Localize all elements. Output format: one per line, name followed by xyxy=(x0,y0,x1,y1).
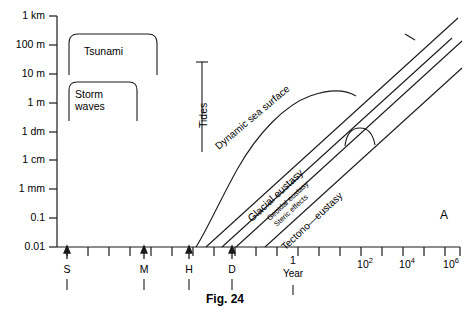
y-tick-label-0.1: 0.1 xyxy=(0,212,45,223)
x-marker-label-M: M xyxy=(130,264,158,275)
storm-waves-label-line2: waves xyxy=(75,100,105,112)
x-tick-label-1e6: 106 xyxy=(433,255,469,270)
geoidal-eustasy-endcap xyxy=(405,34,415,40)
x-marker-label-H: H xyxy=(175,264,203,275)
y-tick-label-100m: 100 m xyxy=(0,39,45,50)
panel-label: A xyxy=(440,208,448,222)
x-marker-label-S: S xyxy=(53,264,81,275)
y-tick-label-1cm: 1 cm xyxy=(0,154,45,165)
x-tick-label-1e4: 104 xyxy=(389,255,425,270)
x-tick-label-1e2: 102 xyxy=(347,255,383,270)
x-marker-label-D: D xyxy=(218,264,246,275)
x-marker-label-Year: Year xyxy=(272,268,314,279)
tectono-eustasy-line xyxy=(265,68,462,247)
y-tick-label-10m: 10 m xyxy=(0,68,45,79)
x-tick-label-1: 1 xyxy=(279,255,307,266)
y-tick-label-1m: 1 m xyxy=(0,97,45,108)
tsunami-label: Tsunami xyxy=(84,45,123,57)
glacial-eustasy-line xyxy=(206,18,458,247)
figure-caption: Fig. 24 xyxy=(206,292,244,306)
y-tick-label-1km: 1 km xyxy=(0,10,45,21)
y-tick-label-0.01: 0.01 xyxy=(0,241,45,252)
y-axis-ticks xyxy=(49,16,57,247)
storm-waves-label-line1: Storm xyxy=(75,88,103,100)
y-tick-label-1mm: 1 mm xyxy=(0,183,45,194)
tides-label: Tides xyxy=(197,103,209,128)
y-tick-label-1dm: 1 dm xyxy=(0,126,45,137)
